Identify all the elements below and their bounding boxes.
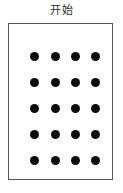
- dot-marker: [51, 52, 60, 61]
- dot-marker: [71, 156, 80, 165]
- dot-marker: [30, 130, 39, 139]
- dot-marker: [71, 52, 80, 61]
- dot-row: [9, 52, 112, 61]
- dot-marker: [30, 104, 39, 113]
- dot-row: [9, 104, 112, 113]
- dot-marker: [51, 104, 60, 113]
- dot-row: [9, 78, 112, 87]
- dot-row: [9, 156, 112, 165]
- dot-marker: [51, 130, 60, 139]
- dot-marker: [51, 156, 60, 165]
- dot-marker: [30, 52, 39, 61]
- dot-marker: [91, 78, 100, 87]
- figure-title: 开始: [0, 3, 123, 18]
- dot-marker: [91, 156, 100, 165]
- dot-marker: [91, 104, 100, 113]
- dot-marker: [91, 130, 100, 139]
- dot-marker: [91, 52, 100, 61]
- dot-marker: [71, 130, 80, 139]
- dot-grid: [9, 24, 112, 179]
- stimulus-figure: 开始: [0, 0, 123, 193]
- dot-marker: [30, 156, 39, 165]
- dot-marker: [71, 104, 80, 113]
- dot-marker: [51, 78, 60, 87]
- stimulus-card[interactable]: [8, 23, 113, 180]
- dot-row: [9, 130, 112, 139]
- dot-marker: [71, 78, 80, 87]
- dot-marker: [30, 78, 39, 87]
